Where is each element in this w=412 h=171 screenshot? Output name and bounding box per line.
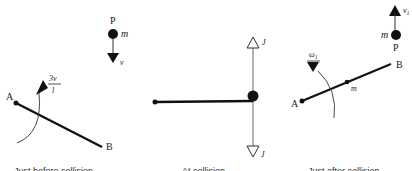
velocity-label: v (120, 58, 124, 67)
omega-denominator: l (52, 86, 55, 95)
impulse-down-arrow-icon (247, 146, 259, 157)
velocity-subscript: 1 (407, 10, 410, 16)
impulse-up-label: J (262, 38, 266, 47)
panel-at: J J At collision (153, 37, 267, 171)
caption-before: Just before collision (14, 166, 93, 171)
caption-after: Just after collision (308, 166, 380, 171)
caption-at: At collision (182, 166, 225, 171)
rod-end-b-label: B (396, 59, 403, 70)
omega-subscript: 1 (315, 54, 318, 60)
particle-label-p: P (110, 15, 116, 26)
rod-end-a (300, 99, 305, 104)
rod-end-b-label: B (106, 141, 113, 152)
rotation-arrowhead-icon (36, 80, 48, 95)
rod-horizontal (155, 101, 253, 102)
particle-label-p: P (393, 42, 399, 53)
rod-end-a-label: A (6, 91, 14, 102)
velocity-label: v1 (403, 6, 410, 16)
rotation-arrowhead-icon (307, 62, 319, 72)
particle-at-collision (248, 91, 259, 102)
rod-end-a (14, 101, 19, 106)
rod-end-a-label: A (291, 98, 299, 109)
particle-mass-label: m (121, 28, 128, 39)
velocity-arrowhead-down-icon (107, 53, 119, 63)
particle-p (391, 30, 401, 40)
impulse-up-arrow-icon (247, 37, 259, 48)
rotation-arc (17, 93, 40, 143)
panel-before: P m v A B 3v l Just before collision (6, 15, 128, 171)
particle-mass-label: m (381, 29, 388, 40)
omega-numerator: 3v (48, 74, 57, 83)
particle-p (108, 29, 118, 39)
rod (16, 103, 102, 147)
rod-mid-mass (345, 80, 350, 85)
omega-label: ω1 (309, 50, 318, 60)
rod-end-a (153, 100, 158, 105)
panel-after: v1 m P A B m ω1 Just after collision (291, 5, 410, 171)
impulse-down-label: J (261, 150, 265, 159)
collision-diagram: P m v A B 3v l Just before collision J J… (0, 0, 412, 171)
rod-mid-mass-label: m (351, 84, 357, 93)
